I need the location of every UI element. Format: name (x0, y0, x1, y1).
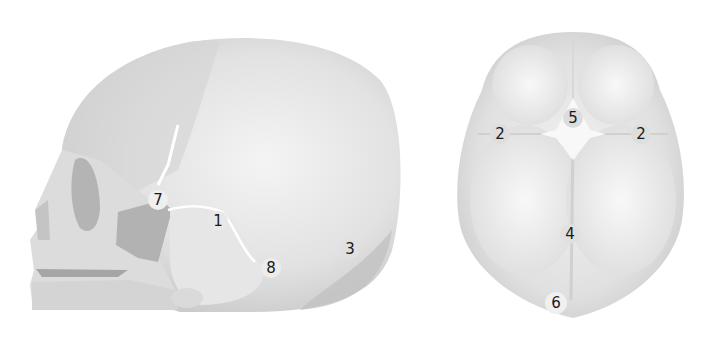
mouth-line (36, 269, 128, 277)
label-2-right: 2 (636, 125, 646, 143)
superior-skull-view (457, 32, 684, 318)
frontal-bone-left (492, 45, 568, 125)
lateral-skull-view (30, 38, 401, 312)
mastoid-process (171, 288, 203, 308)
label-4: 4 (565, 225, 575, 243)
label-5: 5 (568, 109, 578, 127)
label-1: 1 (213, 212, 223, 230)
label-2-left: 2 (495, 125, 505, 143)
frontal-bone-right (578, 45, 654, 125)
label-6: 6 (551, 294, 561, 312)
skull-diagram: 7 1 8 3 5 2 2 4 6 (0, 0, 708, 348)
label-3: 3 (345, 240, 355, 258)
label-8: 8 (266, 259, 276, 277)
label-7: 7 (153, 191, 163, 209)
